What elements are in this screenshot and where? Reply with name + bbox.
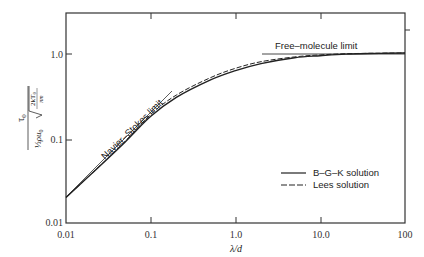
svg-text:2kT0: 2kT0: [29, 92, 37, 106]
x-tick-label: 0.1: [145, 229, 158, 240]
y-tick-label: 0.1: [51, 134, 64, 145]
chart: 0.01 0.1 1.0 10.0 100 0.01 0.1 1.0 λ/d τ…: [0, 0, 424, 257]
y-axis-label: τ0 ½ρu0 2kT0 πm: [15, 86, 44, 150]
x-tick-label: 10.0: [312, 229, 330, 240]
svg-text:½ρu0: ½ρu0: [33, 129, 44, 148]
free-molecule-annotation: Free–molecule limit: [275, 40, 358, 51]
x-tick-labels: 0.01 0.1 1.0 10.0 100: [57, 229, 412, 240]
legend-label: Lees solution: [313, 179, 369, 190]
y-label-sub: 0: [38, 129, 44, 132]
legend: B–G–K solution Lees solution: [281, 167, 379, 190]
svg-text:τ0: τ0: [15, 114, 28, 122]
y-label-rho-u: ρu: [33, 132, 43, 142]
y-tick-label: 0.01: [46, 217, 64, 228]
x-tick-label: 100: [398, 229, 413, 240]
x-tick-label: 1.0: [230, 229, 243, 240]
legend-label: B–G–K solution: [313, 167, 379, 178]
y-tick-labels: 0.01 0.1 1.0: [46, 49, 64, 228]
x-axis-label: λ/d: [229, 243, 243, 254]
svg-text:πm: πm: [38, 95, 44, 103]
x-tick-label: 0.01: [57, 229, 75, 240]
y-ticks: [66, 30, 410, 140]
y-label-sub: 0: [20, 114, 28, 118]
y-tick-label: 1.0: [51, 49, 64, 60]
navier-stokes-annotation: Navier–Stokes limit: [99, 97, 165, 162]
